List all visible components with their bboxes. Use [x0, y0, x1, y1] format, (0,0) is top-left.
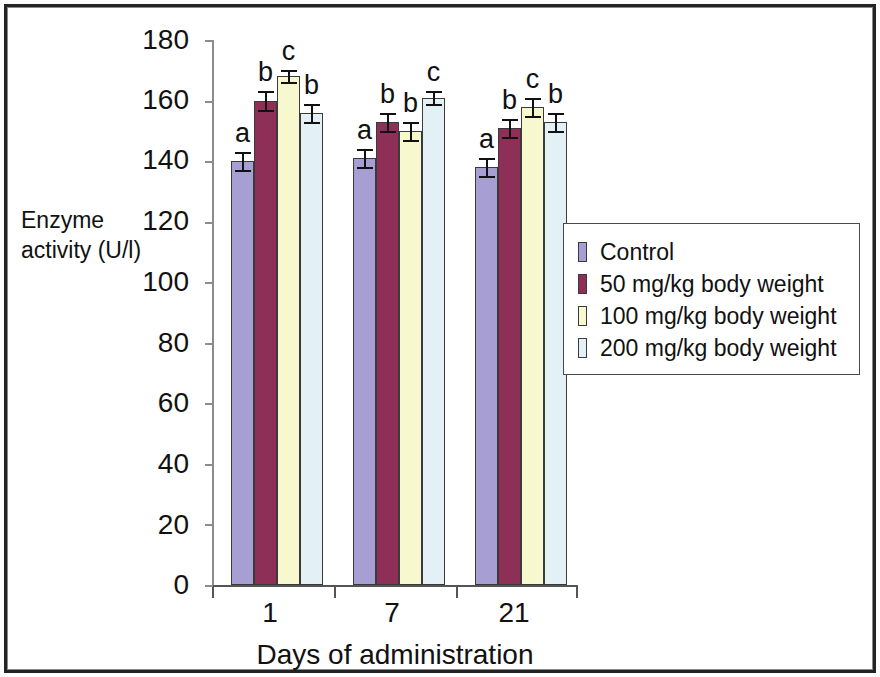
significance-letter: b: [542, 81, 570, 108]
legend-item-100mg: 100 mg/kg body weight: [578, 300, 859, 332]
y-tick-mark: [205, 524, 213, 526]
error-bar-cap-bottom: [380, 131, 396, 133]
legend-item-control: Control: [578, 236, 859, 268]
error-bar: [555, 113, 557, 131]
y-tick-label-0: 0: [103, 571, 189, 599]
error-bar-cap-bottom: [304, 122, 320, 124]
error-bar: [532, 98, 534, 116]
y-tick-mark: [205, 40, 213, 42]
figure-border: Enzyme activity (U/l) 180 160 140 120 10…: [4, 4, 876, 673]
error-bar-cap-top: [548, 113, 564, 115]
error-bar-cap-top: [380, 113, 396, 115]
error-bar-cap-top: [525, 98, 541, 100]
error-bar-cap-bottom: [258, 110, 274, 112]
significance-letter: b: [397, 90, 425, 117]
legend-label-50mg: 50 mg/kg body weight: [600, 271, 824, 298]
error-bar-cap-top: [479, 158, 495, 160]
error-bar: [265, 91, 267, 109]
significance-letter: a: [473, 126, 501, 153]
y-tick-label-160: 160: [103, 86, 189, 114]
y-tick-mark: [205, 464, 213, 466]
error-bar-cap-top: [258, 91, 274, 93]
error-bar-cap-top: [281, 70, 297, 72]
x-tick-mark: [576, 587, 578, 598]
y-tick-mark: [205, 343, 213, 345]
x-axis-title: Days of administration: [195, 639, 595, 671]
y-tick-mark: [205, 403, 213, 405]
error-bar: [242, 152, 244, 170]
legend-label-100mg: 100 mg/kg body weight: [600, 303, 837, 330]
y-tick-label-120: 120: [103, 207, 189, 235]
legend-swatch-200mg: [578, 338, 587, 358]
bar: [422, 98, 445, 585]
error-bar-cap-bottom: [357, 167, 373, 169]
significance-letter: c: [420, 59, 448, 86]
error-bar-cap-top: [304, 104, 320, 106]
significance-letter: a: [229, 120, 257, 147]
error-bar-cap-bottom: [403, 140, 419, 142]
error-bar-cap-top: [357, 149, 373, 151]
y-tick-mark: [205, 222, 213, 224]
y-axis-line: [212, 40, 214, 585]
error-bar-cap-bottom: [548, 131, 564, 133]
legend-item-200mg: 200 mg/kg body weight: [578, 332, 859, 364]
error-bar-cap-top: [502, 119, 518, 121]
error-bar-cap-bottom: [235, 170, 251, 172]
significance-letter: c: [275, 38, 303, 65]
significance-letter: b: [298, 72, 326, 99]
error-bar-cap-top: [403, 122, 419, 124]
y-tick-mark: [205, 101, 213, 103]
x-tick-label-21: 21: [454, 597, 574, 629]
legend-swatch-50mg: [578, 274, 587, 294]
error-bar: [509, 119, 511, 137]
legend-swatch-control: [578, 242, 587, 262]
error-bar-cap-bottom: [525, 116, 541, 118]
x-tick-label-1: 1: [210, 597, 330, 629]
y-tick-label-40: 40: [103, 450, 189, 478]
error-bar-cap-bottom: [426, 104, 442, 106]
significance-letter: a: [351, 117, 379, 144]
y-tick-label-60: 60: [103, 389, 189, 417]
error-bar-cap-bottom: [281, 82, 297, 84]
bar: [231, 161, 254, 585]
y-tick-label-80: 80: [103, 329, 189, 357]
error-bar-cap-top: [426, 91, 442, 93]
plot-area: abcbabbcabcb: [212, 40, 578, 585]
error-bar-cap-top: [235, 152, 251, 154]
legend-swatch-100mg: [578, 306, 587, 326]
bar: [399, 131, 422, 585]
bar: [353, 158, 376, 585]
error-bar: [410, 122, 412, 140]
error-bar-cap-bottom: [502, 137, 518, 139]
error-bar: [486, 158, 488, 176]
legend-label-200mg: 200 mg/kg body weight: [600, 335, 837, 362]
error-bar: [364, 149, 366, 167]
bar: [277, 76, 300, 585]
y-tick-label-180: 180: [103, 26, 189, 54]
x-tick-label-7: 7: [332, 597, 452, 629]
error-bar: [387, 113, 389, 131]
error-bar-cap-bottom: [479, 176, 495, 178]
bar: [254, 101, 277, 585]
y-tick-label-100: 100: [103, 268, 189, 296]
y-tick-label-140: 140: [103, 146, 189, 174]
bar: [475, 167, 498, 585]
x-axis-line: [212, 585, 578, 587]
bar: [521, 107, 544, 585]
figure-canvas: Enzyme activity (U/l) 180 160 140 120 10…: [0, 0, 880, 677]
bar: [498, 128, 521, 585]
legend-label-control: Control: [600, 239, 674, 266]
error-bar: [311, 104, 313, 122]
y-tick-label-20: 20: [103, 511, 189, 539]
y-tick-mark: [205, 161, 213, 163]
legend: Control 50 mg/kg body weight 100 mg/kg b…: [563, 223, 860, 375]
y-tick-mark: [205, 282, 213, 284]
legend-item-50mg: 50 mg/kg body weight: [578, 268, 859, 300]
bar: [376, 122, 399, 585]
bar: [300, 113, 323, 585]
